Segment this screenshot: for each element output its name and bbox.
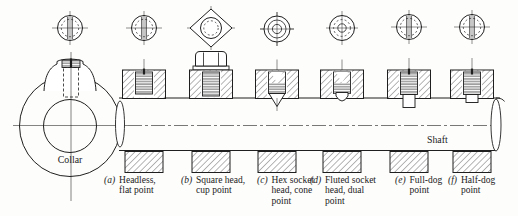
setscrew-b-lower-boss	[192, 152, 230, 173]
setscrew-b-square-head-front	[196, 52, 227, 67]
caption-d: (d) Fluted socket head, dual point	[310, 175, 376, 206]
caption-f-line-2: point	[461, 185, 495, 195]
setscrew-e-body	[401, 72, 418, 95]
collar-bore-circle	[44, 100, 97, 153]
caption-c-line-1: Hex socket	[272, 175, 314, 185]
caption-e-line-1: Full-dog	[410, 175, 443, 185]
caption-f: (f) Half-dog point	[448, 175, 495, 196]
setscrew-d-group	[321, 11, 364, 173]
setscrew-b-square-head-top-view	[190, 9, 232, 47]
caption-b-line-2: cup point	[196, 185, 245, 195]
setscrew-b-body	[203, 72, 220, 96]
setscrew-e-group	[388, 58, 431, 173]
setscrew-a-top-view	[126, 11, 162, 45]
setscrew-a-group	[123, 59, 166, 173]
caption-e-letter: (e)	[395, 175, 406, 196]
setscrew-f-half-dog-point	[466, 95, 478, 103]
shaft-left-break-line	[116, 101, 125, 147]
setscrew-e-full-dog-point	[403, 95, 415, 108]
caption-f-line-1: Half-dog	[461, 175, 495, 185]
setscrew-a-lower-boss	[125, 152, 163, 173]
setscrew-e-lower-boss	[390, 152, 428, 173]
caption-a-letter: (a)	[104, 175, 115, 196]
setscrew-f-group	[451, 58, 494, 173]
caption-e: (e) Full-dog point	[395, 175, 442, 196]
caption-c-line-3: point	[272, 196, 314, 206]
setscrew-f-top-view	[454, 10, 490, 44]
figure-canvas: Collar Shaft (a) Headless, flat point (b…	[0, 0, 518, 216]
caption-c-letter: (c)	[257, 175, 268, 206]
shaft-label: Shaft	[427, 134, 448, 145]
setscrew-f-lower-boss	[453, 152, 491, 173]
caption-b-line-1: Square head,	[196, 175, 245, 185]
caption-a: (a) Headless, flat point	[104, 175, 156, 196]
caption-d-letter: (d)	[310, 175, 321, 206]
caption-e-line-2: point	[410, 185, 443, 195]
caption-c-line-2: head, cone	[272, 185, 314, 195]
shaft-right-break-line	[491, 99, 501, 151]
setscrew-a-body	[136, 72, 153, 94]
caption-f-letter: (f)	[448, 175, 457, 196]
caption-d-line-2: head, dual	[325, 185, 376, 195]
caption-d-line-3: point	[325, 196, 376, 206]
setscrew-d-rounded-point	[336, 93, 348, 102]
caption-a-line-1: Headless,	[119, 175, 156, 185]
caption-a-line-2: flat point	[119, 185, 156, 195]
setscrew-e-top-view	[391, 10, 427, 44]
collar-screw-top-view	[52, 11, 88, 45]
caption-c: (c) Hex socket head, cone point	[257, 175, 314, 206]
caption-b: (b) Square head, cup point	[181, 175, 245, 196]
setscrew-c-group	[256, 12, 299, 173]
setscrew-c-lower-boss	[258, 152, 296, 173]
caption-b-letter: (b)	[181, 175, 192, 196]
caption-d-line-1: Fluted socket	[325, 175, 376, 185]
setscrew-b-group	[187, 6, 235, 173]
setscrew-d-lower-boss	[323, 152, 361, 173]
collar-label: Collar	[46, 154, 94, 165]
setscrew-b-head-washer	[193, 66, 229, 70]
setscrew-f-body	[464, 72, 481, 95]
